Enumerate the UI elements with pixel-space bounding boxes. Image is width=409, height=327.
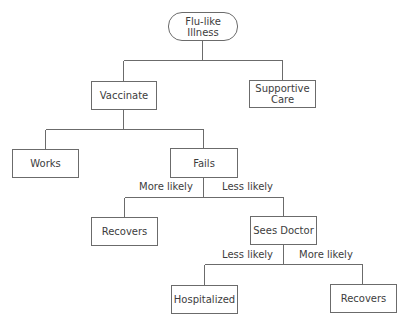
node-recovers-left: Recovers <box>91 217 158 246</box>
edge-label-fails-less-likely: Less likely <box>222 181 273 193</box>
node-works: Works <box>12 149 79 178</box>
edge-label-doctor-less-likely: Less likely <box>222 249 273 261</box>
node-recovers-right: Recovers <box>330 284 397 313</box>
edge-label-fails-more-likely: More likely <box>139 181 193 193</box>
node-vaccinate: Vaccinate <box>91 81 157 110</box>
node-hospitalized: Hospitalized <box>171 285 238 314</box>
edge-label-doctor-more-likely: More likely <box>299 249 353 261</box>
node-supportive-care: Supportive Care <box>249 80 316 108</box>
node-fails: Fails <box>170 148 238 178</box>
decision-tree-diagram: Flu-like Illness Vaccinate Supportive Ca… <box>0 0 409 327</box>
node-flu-like-illness: Flu-like Illness <box>168 12 238 41</box>
node-sees-doctor: Sees Doctor <box>250 216 317 245</box>
